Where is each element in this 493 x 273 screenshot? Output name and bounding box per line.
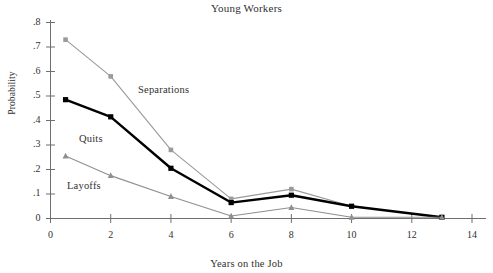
y-axis-label: Probability xyxy=(7,43,17,143)
x-tick-label: 0 xyxy=(40,229,62,240)
data-point xyxy=(63,97,68,102)
data-point xyxy=(289,193,294,198)
y-tick-label: 0 xyxy=(19,212,41,223)
data-point xyxy=(349,204,354,209)
y-tick-label: .8 xyxy=(19,16,41,27)
series-label-quits: Quits xyxy=(79,133,103,144)
chart-figure: Young Workers Probability Years on the J… xyxy=(0,0,493,273)
y-tick-label: .4 xyxy=(19,114,41,125)
data-point xyxy=(169,148,174,153)
series-line xyxy=(66,40,442,218)
data-point xyxy=(289,187,294,192)
x-tick-label: 10 xyxy=(341,229,363,240)
chart-title: Young Workers xyxy=(0,2,493,14)
x-axis-label: Years on the Job xyxy=(0,258,493,269)
series-label-layoffs: Layoffs xyxy=(67,180,101,191)
series-line xyxy=(66,100,442,218)
y-tick-label: .6 xyxy=(19,65,41,76)
x-tick-label: 4 xyxy=(160,229,182,240)
series-label-separations: Separations xyxy=(138,84,189,95)
data-point xyxy=(108,114,113,119)
data-point xyxy=(229,200,234,205)
series-quits xyxy=(63,97,445,220)
y-tick-label: .1 xyxy=(19,187,41,198)
data-point xyxy=(108,74,113,79)
data-point xyxy=(288,204,294,210)
x-tick-label: 6 xyxy=(220,229,242,240)
x-tick-label: 8 xyxy=(280,229,302,240)
x-tick-label: 2 xyxy=(100,229,122,240)
x-tick-label: 14 xyxy=(461,229,483,240)
series-separations xyxy=(63,37,444,219)
y-tick-label: .3 xyxy=(19,138,41,149)
y-tick-label: .5 xyxy=(19,89,41,100)
y-tick-label: .2 xyxy=(19,163,41,174)
x-tick-label: 12 xyxy=(401,229,423,240)
data-point xyxy=(168,166,173,171)
y-tick-label: .7 xyxy=(19,40,41,51)
data-point xyxy=(63,37,68,42)
series-line xyxy=(66,156,442,217)
data-point xyxy=(63,153,69,159)
